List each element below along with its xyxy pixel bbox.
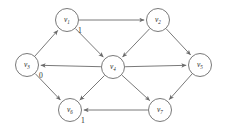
graph-edge-v4-to-v6 [80,76,105,101]
graph-node-v3[interactable]: v3 [16,54,39,77]
graph-node-v7[interactable]: v7 [149,99,172,122]
graph-edge-v5-to-v7 [169,74,192,100]
graph-edge-v3-to-v1 [35,30,58,56]
edge-label-v7-v6: 1 [81,116,85,125]
graph-node-v6[interactable]: v6 [59,99,82,122]
graph-node-v2[interactable]: v2 [147,9,170,32]
graph-edge-v2-to-v4 [123,29,150,57]
edge-label-v4-v3: 0 [39,71,43,80]
graph-node-v4[interactable]: v4 [102,56,125,79]
graph-edge-v4-to-v5 [125,65,186,66]
graph-diagram-canvas: v1v2v3v4v5v6v7 101 [0,0,226,128]
edge-label-v1-v2: 1 [78,26,82,35]
graph-node-v1[interactable]: v1 [56,9,79,32]
graph-node-v5[interactable]: v5 [189,54,212,77]
graph-edge-v4-to-v3 [41,65,101,66]
graph-edge-v2-to-v5 [166,29,190,55]
directed-graph-svg: v1v2v3v4v5v6v7 101 [0,0,226,128]
graph-edge-v4-to-v7 [122,75,150,101]
